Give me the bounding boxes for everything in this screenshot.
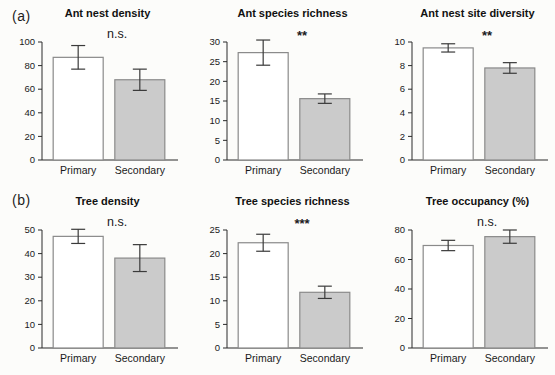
chart-panel-tree-density: Tree density 01020304050PrimarySecondary… bbox=[0, 188, 185, 375]
y-tick-label: 30 bbox=[24, 271, 35, 282]
y-tick-label: 60 bbox=[24, 83, 35, 94]
category-label: Secondary bbox=[115, 352, 166, 364]
category-label: Primary bbox=[60, 164, 97, 176]
y-tick-label: 20 bbox=[394, 313, 405, 324]
chart-title: Tree species richness bbox=[217, 195, 368, 207]
figure-bar-chart-grid: (a) (b) Ant nest density 020406080100Pri… bbox=[0, 0, 555, 375]
chart-panel-tree-occupancy: Tree occupancy (%) 020406080PrimarySecon… bbox=[370, 188, 555, 375]
bar-secondary bbox=[115, 80, 165, 160]
y-tick-label: 15 bbox=[209, 271, 220, 282]
significance-label: n.s. bbox=[477, 215, 497, 229]
category-label: Primary bbox=[245, 352, 282, 364]
bar-primary bbox=[238, 53, 288, 160]
chart-title: Ant species richness bbox=[217, 7, 368, 19]
y-tick-label: 4 bbox=[400, 107, 405, 118]
category-label: Secondary bbox=[300, 164, 351, 176]
y-tick-label: 60 bbox=[394, 254, 405, 265]
chart-title: Tree density bbox=[32, 195, 183, 207]
category-label: Secondary bbox=[300, 352, 351, 364]
significance-label: ** bbox=[482, 28, 493, 43]
chart-panel-ant-nest-site-diversity: Ant nest site diversity 0246810PrimarySe… bbox=[370, 0, 555, 188]
y-tick-label: 20 bbox=[209, 248, 220, 259]
category-label: Primary bbox=[430, 352, 467, 364]
y-tick-label: 0 bbox=[400, 154, 405, 165]
chart-plot-area: 020406080PrimarySecondaryn.s. bbox=[370, 210, 555, 375]
chart-panel-ant-nest-density: Ant nest density 020406080100PrimarySeco… bbox=[0, 0, 185, 188]
chart-plot-area: 020406080100PrimarySecondaryn.s. bbox=[0, 22, 185, 187]
category-label: Secondary bbox=[115, 164, 166, 176]
category-label: Primary bbox=[245, 164, 282, 176]
y-tick-label: 20 bbox=[24, 295, 35, 306]
y-tick-label: 2 bbox=[400, 131, 405, 142]
y-tick-label: 20 bbox=[209, 76, 220, 87]
chart-svg: 020406080100PrimarySecondaryn.s. bbox=[0, 22, 185, 187]
chart-plot-area: 0246810PrimarySecondary** bbox=[370, 22, 555, 187]
y-tick-label: 40 bbox=[394, 283, 405, 294]
chart-svg: 020406080PrimarySecondaryn.s. bbox=[370, 210, 555, 375]
chart-plot-area: 051015202530PrimarySecondary** bbox=[185, 22, 370, 187]
y-tick-label: 10 bbox=[394, 36, 405, 47]
category-label: Secondary bbox=[485, 352, 536, 364]
category-label: Primary bbox=[60, 352, 97, 364]
bar-primary bbox=[238, 243, 288, 348]
chart-plot-area: 01020304050PrimarySecondaryn.s. bbox=[0, 210, 185, 375]
y-tick-label: 0 bbox=[400, 342, 405, 353]
y-tick-label: 0 bbox=[30, 342, 35, 353]
y-tick-label: 80 bbox=[394, 224, 405, 235]
chart-panel-ant-species-richness: Ant species richness 051015202530Primary… bbox=[185, 0, 370, 188]
y-tick-label: 15 bbox=[209, 95, 220, 106]
bar-primary bbox=[53, 236, 103, 348]
chart-grid: Ant nest density 020406080100PrimarySeco… bbox=[0, 0, 555, 375]
y-tick-label: 0 bbox=[215, 342, 220, 353]
bar-primary bbox=[423, 245, 473, 348]
y-tick-label: 0 bbox=[30, 154, 35, 165]
y-tick-label: 25 bbox=[209, 56, 220, 67]
chart-svg: 01020304050PrimarySecondaryn.s. bbox=[0, 210, 185, 375]
y-tick-label: 5 bbox=[215, 319, 220, 330]
significance-label: ** bbox=[297, 28, 308, 43]
bar-primary bbox=[423, 48, 473, 160]
y-tick-label: 100 bbox=[19, 36, 35, 47]
bar-secondary bbox=[485, 237, 535, 348]
y-tick-label: 40 bbox=[24, 248, 35, 259]
chart-svg: 0246810PrimarySecondary** bbox=[370, 22, 555, 187]
y-tick-label: 80 bbox=[24, 60, 35, 71]
significance-label: n.s. bbox=[107, 27, 127, 41]
y-tick-label: 10 bbox=[24, 319, 35, 330]
chart-plot-area: 0510152025PrimarySecondary*** bbox=[185, 210, 370, 375]
chart-svg: 051015202530PrimarySecondary** bbox=[185, 22, 370, 187]
y-tick-label: 6 bbox=[400, 83, 405, 94]
chart-title: Ant nest site diversity bbox=[402, 7, 553, 19]
chart-title: Tree occupancy (%) bbox=[402, 195, 553, 207]
category-label: Secondary bbox=[485, 164, 536, 176]
significance-label: *** bbox=[294, 216, 310, 231]
y-tick-label: 40 bbox=[24, 107, 35, 118]
y-tick-label: 10 bbox=[209, 115, 220, 126]
y-tick-label: 10 bbox=[209, 295, 220, 306]
y-tick-label: 8 bbox=[400, 60, 405, 71]
bar-secondary bbox=[300, 99, 350, 160]
y-tick-label: 30 bbox=[209, 36, 220, 47]
category-label: Primary bbox=[430, 164, 467, 176]
chart-title: Ant nest density bbox=[32, 7, 183, 19]
y-tick-label: 20 bbox=[24, 131, 35, 142]
bar-secondary bbox=[300, 292, 350, 348]
bar-primary bbox=[53, 57, 103, 160]
chart-panel-tree-species-richness: Tree species richness 0510152025PrimaryS… bbox=[185, 188, 370, 375]
y-tick-label: 0 bbox=[215, 154, 220, 165]
chart-svg: 0510152025PrimarySecondary*** bbox=[185, 210, 370, 375]
significance-label: n.s. bbox=[107, 215, 127, 229]
bar-secondary bbox=[485, 68, 535, 160]
y-tick-label: 50 bbox=[24, 224, 35, 235]
y-tick-label: 5 bbox=[215, 135, 220, 146]
y-tick-label: 25 bbox=[209, 224, 220, 235]
